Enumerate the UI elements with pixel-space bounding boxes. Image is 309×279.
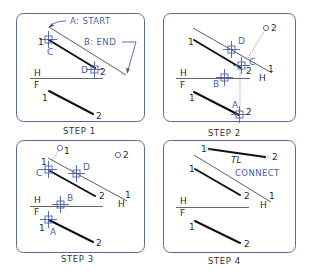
annotation-start: A: START [70, 16, 111, 26]
point-label-1: 1 [189, 164, 195, 174]
projector-line [52, 150, 59, 160]
label-f: F [34, 80, 39, 90]
aux-label-1: 1 [269, 191, 275, 201]
panel-step-1: A: START B: END 1 C D 2 H F 1 2 STEP 1 [17, 14, 145, 137]
point-label-o2: 2 [271, 23, 277, 33]
aux-label-1: 1 [268, 64, 274, 74]
diagram-canvas: A: START B: END 1 C D 2 H F 1 2 STEP 1 [0, 0, 309, 279]
label-h: H [34, 68, 41, 78]
label-h: H [34, 195, 41, 205]
line-1-2-front [195, 221, 240, 243]
point-label-d: D [238, 36, 245, 46]
step-caption: STEP 2 [208, 128, 241, 138]
aux-label-h: H [259, 73, 266, 83]
step-caption: STEP 3 [61, 254, 94, 264]
point-label-c: C [47, 47, 53, 57]
point-label-1: 1 [188, 37, 194, 47]
line-1-2-front [49, 91, 93, 114]
projector-line [248, 30, 265, 58]
panel-step-3: 1 2 1 C D 2 1 H H F [17, 141, 145, 265]
line-1-2-top [195, 169, 240, 195]
point-label-1: 1 [38, 37, 44, 47]
panel-step-2: 2 1 D C 2 1 H H F B [164, 14, 296, 139]
arrowhead-icon [126, 68, 130, 74]
point-label-a: A [232, 100, 239, 110]
point-label-2: 2 [246, 66, 252, 76]
aux-label-h: H [260, 200, 267, 210]
front-label-1: 1 [39, 223, 45, 233]
point-label-d: D [83, 162, 90, 172]
front-label-1: 1 [189, 93, 195, 103]
point-label-a: A [50, 227, 57, 237]
point-label-o2: 2 [123, 150, 129, 160]
end-leader [122, 42, 136, 70]
point-label-o1: 1 [64, 146, 70, 156]
panel-step-4: 1 2 TL CONNECT 1 2 1 H H F 1 2 STEP 4 [164, 141, 296, 267]
line-1-2-top [194, 40, 241, 68]
projected-point-2-icon [263, 25, 268, 30]
point-label-1: 1 [41, 157, 47, 167]
label-h: H [180, 68, 187, 78]
projected-point-1-icon [57, 145, 62, 150]
annotation-end: B: END [84, 37, 116, 47]
front-label-2: 2 [246, 107, 252, 117]
tl-label-2: 2 [272, 152, 278, 162]
front-label-1: 1 [42, 93, 48, 103]
point-label-b: B [67, 193, 73, 203]
point-label-b: B [213, 79, 219, 89]
front-label-1: 1 [189, 222, 195, 232]
label-h: H [180, 196, 187, 206]
step-caption: STEP 4 [208, 256, 241, 266]
point-label-d: D [81, 65, 88, 75]
aux-label-h: H [118, 199, 125, 209]
point-label-2: 2 [244, 191, 250, 201]
front-label-2: 2 [96, 238, 102, 248]
label-f: F [180, 208, 185, 218]
projected-point-2-icon [115, 152, 120, 157]
front-label-2: 2 [96, 111, 102, 121]
aux-label-1: 1 [125, 190, 131, 200]
auxiliary-line [193, 28, 272, 73]
tl-label-1: 1 [201, 144, 207, 154]
point-label-2: 2 [100, 67, 106, 77]
annotation-tl: TL [231, 155, 242, 165]
annotation-connect: CONNECT [235, 168, 280, 178]
point-label-c: C [36, 168, 42, 178]
front-label-2: 2 [244, 239, 250, 249]
label-f: F [34, 207, 39, 217]
step-caption: STEP 1 [63, 126, 96, 136]
label-f: F [180, 80, 185, 90]
point-label-2: 2 [99, 191, 105, 201]
